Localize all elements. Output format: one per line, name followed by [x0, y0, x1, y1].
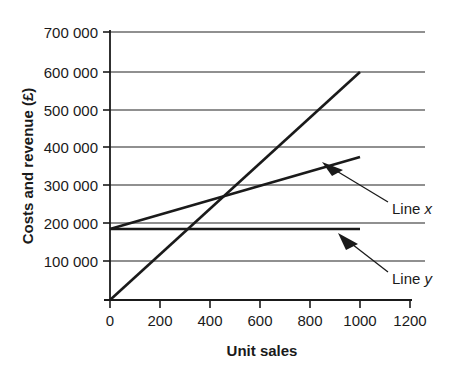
- y-tick-label: 400 000: [44, 139, 98, 156]
- line-x-label-italic: x: [424, 200, 433, 217]
- line-y-label-prefix: Line: [392, 270, 425, 287]
- y-tick-label: 600 000: [44, 64, 98, 81]
- y-tick-label: 500 000: [44, 102, 98, 119]
- line-x-label: Line x: [392, 200, 433, 217]
- x-axis-title: Unit sales: [227, 342, 298, 359]
- x-tick-label: 600: [247, 312, 272, 329]
- x-tick-label: 400: [197, 312, 222, 329]
- line-y-label: Line y: [392, 270, 434, 287]
- x-tick-label: 0: [106, 312, 114, 329]
- y-tick-label: 200 000: [44, 215, 98, 232]
- line-x-label-prefix: Line: [392, 200, 425, 217]
- y-tick-label: 700 000: [44, 24, 98, 41]
- line-chart: 700 000 600 000 500 000 400 000 300 000 …: [0, 0, 464, 374]
- chart-container: 700 000 600 000 500 000 400 000 300 000 …: [0, 0, 464, 374]
- x-tick-label: 800: [297, 312, 322, 329]
- y-axis-title: Costs and revenue (£): [19, 88, 36, 245]
- y-tick-label: 100 000: [44, 253, 98, 270]
- y-tick-label: 300 000: [44, 177, 98, 194]
- x-tick-label: 200: [147, 312, 172, 329]
- x-tick-label: 1000: [343, 312, 376, 329]
- x-tick-label: 1200: [393, 312, 426, 329]
